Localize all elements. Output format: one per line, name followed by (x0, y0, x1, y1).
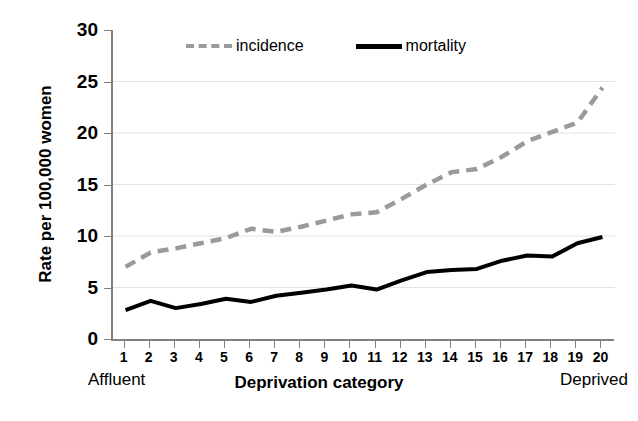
y-axis-tick-labels: 051015202530 (48, 0, 98, 421)
x-tick-mark (324, 341, 325, 348)
x-tick-mark (500, 341, 501, 348)
legend-label: mortality (406, 38, 466, 54)
legend-swatch-incidence (186, 44, 232, 48)
y-tick-label: 20 (52, 123, 98, 142)
x-tick-mark (425, 341, 426, 348)
series-line-incidence (126, 88, 603, 267)
x-tick-mark (124, 341, 125, 348)
x-tick-mark (450, 341, 451, 348)
x-tick-mark (375, 341, 376, 348)
x-tick-label: 20 (585, 350, 615, 364)
series-canvas (113, 30, 615, 339)
y-tick-mark (104, 133, 111, 134)
y-tick-mark (104, 339, 111, 340)
x-tick-mark (525, 341, 526, 348)
x-tick-mark (550, 341, 551, 348)
x-axis-tick-marks (111, 341, 614, 349)
plot-area (111, 30, 615, 339)
x-tick-mark (224, 341, 225, 348)
x-tick-mark (274, 341, 275, 348)
x-tick-mark (600, 341, 601, 348)
series-line-mortality (126, 237, 603, 310)
x-tick-mark (199, 341, 200, 348)
y-tick-label: 30 (52, 20, 98, 39)
x-tick-mark (349, 341, 350, 348)
y-tick-label: 10 (52, 226, 98, 245)
legend-swatch-mortality (356, 44, 402, 49)
y-tick-mark (104, 288, 111, 289)
deprivation-rate-chart: Rate per 100,000 women 051015202530 1234… (0, 0, 638, 421)
x-tick-mark (400, 341, 401, 348)
y-tick-mark (104, 185, 111, 186)
y-tick-label: 5 (52, 278, 98, 297)
x-tick-mark (575, 341, 576, 348)
x-axis-tick-labels: 1234567891011121314151617181920 (111, 350, 614, 370)
data-series-group (126, 88, 603, 310)
legend-item-incidence: incidence (186, 38, 304, 54)
y-tick-mark (104, 82, 111, 83)
y-tick-label: 15 (52, 175, 98, 194)
x-tick-mark (249, 341, 250, 348)
legend-item-mortality: mortality (356, 38, 466, 54)
y-tick-mark (104, 30, 111, 31)
chart-legend: incidencemortality (186, 38, 466, 54)
x-tick-mark (299, 341, 300, 348)
x-tick-mark (149, 341, 150, 348)
y-tick-label: 0 (52, 329, 98, 348)
legend-label: incidence (236, 38, 304, 54)
x-tick-mark (475, 341, 476, 348)
x-axis-title: Deprivation category (0, 373, 638, 393)
y-tick-mark (104, 236, 111, 237)
x-tick-mark (174, 341, 175, 348)
y-tick-label: 25 (52, 72, 98, 91)
